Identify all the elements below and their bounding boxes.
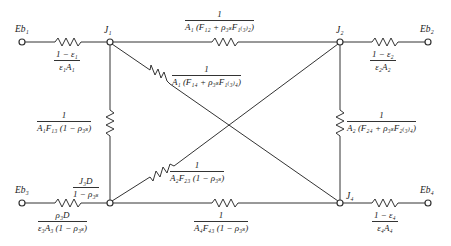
resistor-r13-label: 1A₁F₁₃ (1 − ρ₃ₛ) [37,110,91,134]
label-eb4: Eb₄ [420,186,434,196]
node-j3 [107,200,113,206]
terminal-eb3 [19,200,25,206]
resistor-r14-label: 1A₁ (F₁₄ + ρ₃ₛF₁₍₃₎₄) [172,64,241,88]
resistor-r24-label: 1A₂ (F₂₄ + ρ₃ₛF₂₍₃₎₄) [347,110,416,134]
label-eb2: Eb₂ [420,25,434,35]
resistor-r23-label: 1A₂F₂₃ (1 − ρ₃ₛ) [170,160,224,184]
resistor-surface3-label: ρ₃Dε₃A₃ (1 − ρ₃ₛ) [38,210,87,234]
resistor-r12-label: 1A₁ (F₁₂ + ρ₃ₛF₁₍₃₎₂) [185,9,254,33]
terminal-eb2 [425,39,431,45]
label-j2: J₂ [336,26,344,36]
terminal-eb1 [19,39,25,45]
resistor-surface1-label: 1 − ε₁ε₁A₁ [54,49,80,73]
label-eb3: Eb₃ [15,186,29,196]
terminal-eb4 [425,200,431,206]
resistor-surface4-label: 1 − ε₄ε₄A₄ [372,210,398,234]
label-j4: J₄ [346,192,354,202]
node-j1 [107,39,113,45]
label-j1: J₁ [104,26,112,36]
source-j3d-label: J₃D1 − ρ₃ₛ [73,176,99,200]
node-j4 [337,200,343,206]
resistor-surface2-label: 1 − ε₂ε₂A₂ [370,49,396,73]
label-eb1: Eb₁ [15,25,29,35]
resistor-r43-label: 1A₄F₄₃ (1 − ρ₃ₛ) [194,210,248,234]
node-j2 [337,39,343,45]
